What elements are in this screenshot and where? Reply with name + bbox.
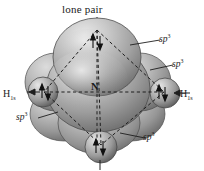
orbital-diagram-svg [0, 0, 204, 171]
figure-canvas: lone pair N H1s H1s sp3 sp3 sp3 sp3 [0, 0, 204, 171]
lone-pair-highlight [62, 29, 114, 63]
